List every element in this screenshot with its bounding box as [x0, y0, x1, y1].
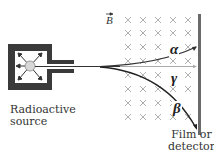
source-label-line2: source — [10, 116, 76, 128]
detector-film-bar — [198, 14, 201, 135]
radioactive-decay-magnetic-field-diagram: B α γ β Radioactive source Film or detec… — [0, 0, 214, 159]
radioactive-sample-icon — [25, 61, 35, 71]
magnetic-field-label: B — [106, 14, 113, 26]
gamma-label: γ — [170, 71, 178, 86]
detector-label-line2: detector — [168, 141, 214, 153]
alpha-ray-path — [100, 47, 196, 67]
source-label: Radioactive source — [10, 104, 76, 128]
beta-label: β — [172, 101, 182, 116]
beta-ray-path — [100, 67, 196, 128]
detector-label: Film or detector — [168, 129, 214, 153]
alpha-label: α — [169, 42, 179, 57]
